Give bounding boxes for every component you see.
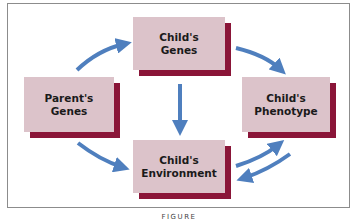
node-label: Parent's Genes [45, 92, 94, 118]
node-face: Child's Phenotype [242, 77, 330, 132]
node-face: Child's Environment [133, 140, 225, 193]
node-label: Child's Genes [159, 31, 198, 57]
arrow-phenotype-to-environment [244, 154, 290, 178]
node-label: Child's Environment [141, 154, 217, 180]
node-label: Child's Phenotype [254, 92, 317, 118]
arrow-parent-to-environment [78, 143, 122, 167]
node-face: Parent's Genes [24, 77, 114, 132]
arrow-child-genes-to-phenotype [236, 48, 280, 69]
node-face: Child's Genes [133, 17, 225, 70]
arrow-environment-to-phenotype [236, 145, 278, 166]
figure-caption: FIGURE [0, 213, 358, 219]
arrow-parent-to-child-genes [77, 44, 124, 70]
